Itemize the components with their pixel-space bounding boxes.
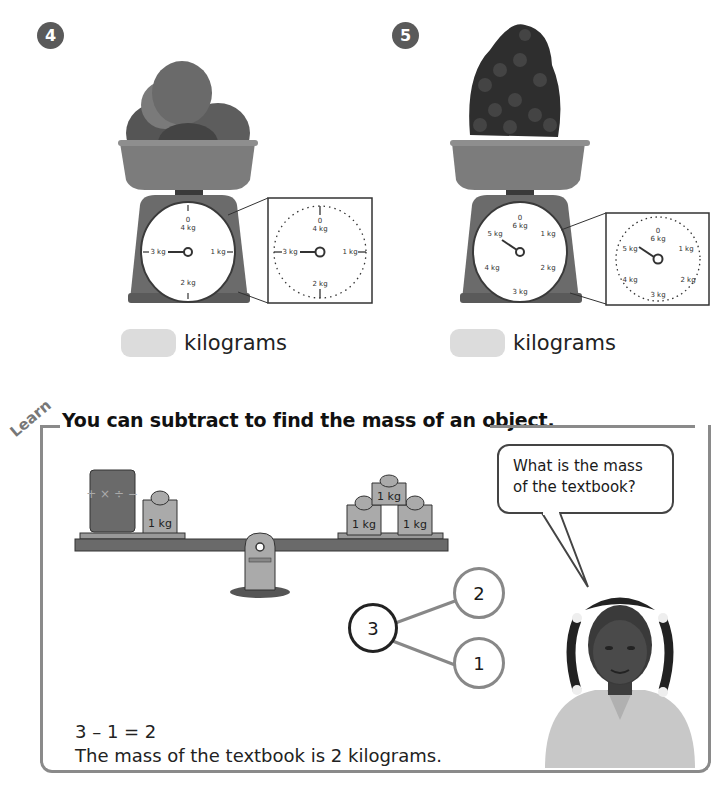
answer-input[interactable] [450,329,505,357]
svg-text:1 kg: 1 kg [377,490,401,503]
divider [40,425,60,428]
svg-text:3 kg: 3 kg [150,248,165,256]
svg-text:2 kg: 2 kg [540,264,555,272]
svg-text:6 kg: 6 kg [650,235,665,243]
number-bond-whole: 3 [348,603,398,653]
svg-text:3 kg: 3 kg [650,291,665,299]
speech-bubble-text: What is the mass of the textbook? [513,457,643,496]
question-number-badge: 4 [37,22,64,49]
svg-text:1 kg: 1 kg [210,248,225,256]
svg-text:4 kg: 4 kg [312,225,327,233]
svg-text:4 kg: 4 kg [622,276,637,284]
svg-text:1 kg: 1 kg [540,230,555,238]
svg-text:0: 0 [656,227,660,235]
conclusion-text: The mass of the textbook is 2 kilograms. [75,743,442,768]
svg-text:1 kg: 1 kg [403,518,427,531]
svg-text:1 kg: 1 kg [678,245,693,253]
kitchen-scale-apples-illustration: 0 4 kg 1 kg 2 kg 3 kg 0 4 kg 1 kg 2 kg 3… [110,55,380,310]
svg-text:5 kg: 5 kg [487,230,502,238]
number-bond-part: 1 [453,637,505,689]
number-bond-part: 2 [453,567,505,619]
svg-text:5 kg: 5 kg [622,245,637,253]
svg-text:2 kg: 2 kg [180,279,195,287]
svg-text:4 kg: 4 kg [180,224,195,232]
svg-text:1 kg: 1 kg [342,248,357,256]
unit-label: kilograms [184,331,287,355]
question-number: 4 [45,26,56,45]
answer-row: kilograms [121,329,287,357]
svg-text:6 kg: 6 kg [512,222,527,230]
svg-text:1 kg: 1 kg [352,518,376,531]
speech-bubble-tail [540,512,600,592]
svg-text:0: 0 [518,214,522,222]
svg-text:3 kg: 3 kg [282,248,297,256]
svg-text:4 kg: 4 kg [484,264,499,272]
textbook-icon [90,470,135,532]
svg-text:+ × ÷ −: + × ÷ − [86,487,138,501]
student-photo [535,590,705,768]
svg-text:2 kg: 2 kg [312,280,327,288]
svg-text:0: 0 [186,216,190,224]
question-number-badge: 5 [392,22,419,49]
speech-bubble: What is the mass of the textbook? [497,444,674,514]
answer-input[interactable] [121,329,176,357]
svg-text:2 kg: 2 kg [680,276,695,284]
answer-row: kilograms [450,329,616,357]
equation-text: 3 – 1 = 2 [75,719,156,744]
svg-text:3 kg: 3 kg [512,288,527,296]
svg-text:1 kg: 1 kg [148,517,172,530]
apple-icon [152,61,212,125]
kitchen-scale-grapes-illustration: 0 6 kg 1 kg 2 kg 3 kg 4 kg 5 kg 0 6 kg 1… [440,15,715,310]
svg-text:0: 0 [318,217,322,225]
unit-label: kilograms [513,331,616,355]
question-number: 5 [400,26,411,45]
